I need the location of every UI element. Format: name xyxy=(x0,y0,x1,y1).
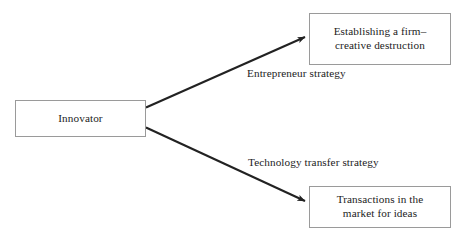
node-innovator-label: Innovator xyxy=(54,112,106,126)
diagram-canvas: Innovator Establishing a firm– creative … xyxy=(0,0,462,243)
node-establishing-a-firm-label: Establishing a firm– creative destructio… xyxy=(330,25,431,52)
edge-label-entrepreneur-strategy: Entrepreneur strategy xyxy=(247,67,346,79)
node-innovator[interactable]: Innovator xyxy=(15,100,146,137)
node-establishing-a-firm[interactable]: Establishing a firm– creative destructio… xyxy=(309,13,451,65)
node-transactions-label: Transactions in the market for ideas xyxy=(333,193,428,220)
edge-label-technology-transfer-strategy: Technology transfer strategy xyxy=(248,156,379,168)
node-transactions-in-the-market-for-ideas[interactable]: Transactions in the market for ideas xyxy=(309,186,451,228)
